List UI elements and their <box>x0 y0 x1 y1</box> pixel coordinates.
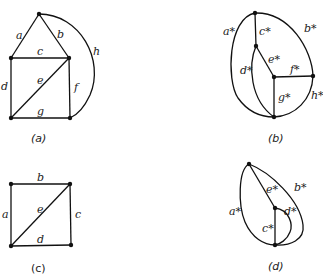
vertex <box>68 182 72 186</box>
graph-b: a* b* c* d* e* f* g* h* (b) <box>223 11 323 145</box>
vertex <box>247 162 251 166</box>
vertex <box>68 116 72 120</box>
edge-label-c: c <box>37 45 43 58</box>
caption-a: (a) <box>31 132 46 145</box>
graph-a: a b c d e f g h (a) <box>1 12 100 145</box>
edge-label-c-star: c* <box>259 25 271 38</box>
edge-label-c: c <box>75 208 81 221</box>
planar-graph-duals-figure: a b c d e f g h (a) a* b* c* d* e* f* g*… <box>0 0 323 278</box>
edge-c <box>70 184 71 245</box>
edge-label-d: d <box>37 233 44 246</box>
edge-label-e: e <box>37 203 44 216</box>
edge-label-e-star: e* <box>266 183 279 196</box>
graph-d: e* b* a* d* c* (d) <box>229 162 307 273</box>
edge-label-a-star: a* <box>229 205 242 218</box>
edge-label-f: f <box>73 81 80 94</box>
vertex <box>273 206 277 210</box>
edge-c-star <box>255 13 256 46</box>
vertex <box>9 182 13 186</box>
vertex <box>272 75 276 79</box>
edge-f-star <box>274 76 313 77</box>
edge-label-f-star: f* <box>289 63 300 76</box>
edge-label-h: h <box>93 45 100 58</box>
edge-label-d-star: d* <box>284 205 297 218</box>
edge-label-g-star: g* <box>278 91 291 104</box>
edge-label-b-star: b* <box>304 22 317 35</box>
vertex <box>67 56 71 60</box>
edge-label-e-star: e* <box>268 53 281 66</box>
vertex <box>9 116 13 120</box>
vertex <box>9 56 13 60</box>
vertex <box>69 243 73 247</box>
edge-label-h-star: h* <box>311 89 323 102</box>
edge-label-a-star: a* <box>223 25 236 38</box>
edge-label-a: a <box>2 208 9 221</box>
vertex <box>253 11 257 15</box>
edge-label-b: b <box>37 171 44 184</box>
caption-d: (d) <box>268 260 284 273</box>
edge-label-d: d <box>1 80 8 93</box>
graph-c: b a e c d (c) <box>2 171 81 275</box>
edge-h <box>39 14 94 118</box>
vertex <box>272 115 276 119</box>
vertex <box>273 243 277 247</box>
edge-label-e: e <box>37 74 44 87</box>
edge-label-b-star: b* <box>294 181 307 194</box>
edge-label-g: g <box>37 105 44 118</box>
vertex <box>311 74 315 78</box>
vertex <box>254 44 258 48</box>
vertex <box>9 244 13 248</box>
edge-label-a: a <box>16 29 23 42</box>
edge-f <box>69 58 70 118</box>
edge-label-c-star: c* <box>262 222 274 235</box>
edge-label-b: b <box>57 28 64 41</box>
caption-b: (b) <box>268 132 284 145</box>
caption-c: (c) <box>31 262 46 275</box>
vertex <box>37 12 41 16</box>
edge-label-d-star: d* <box>240 64 253 77</box>
